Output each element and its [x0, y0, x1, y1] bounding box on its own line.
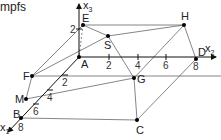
points	[19, 23, 198, 122]
x1-tick-2: 2	[62, 77, 68, 88]
label-A: A	[81, 58, 89, 70]
label-F: F	[23, 70, 30, 82]
geometry-diagram: mpfs x2 x3 x1 2 4 6	[0, 0, 221, 140]
edge-SH	[108, 25, 184, 36]
edge-BC	[21, 118, 137, 120]
x1-tick-4: 4	[47, 92, 53, 103]
label-S: S	[104, 39, 111, 51]
edges	[21, 25, 221, 120]
x1-axis-label: x1	[0, 121, 10, 135]
label-E: E	[82, 12, 89, 24]
caption-text: mpfs	[0, 0, 26, 14]
x2-tick-4: 4	[135, 60, 141, 71]
label-D: D	[198, 46, 206, 58]
edge-HG	[134, 25, 184, 78]
x2-axis-label: x2	[205, 42, 215, 56]
point-G	[132, 76, 136, 80]
point-C	[135, 118, 139, 122]
x1-tick-8: 8	[18, 122, 24, 133]
label-B: B	[13, 108, 20, 120]
edge-EA-hidden	[79, 25, 83, 57]
edge-FS	[32, 36, 108, 76]
point-M	[24, 97, 28, 101]
point-S	[106, 34, 110, 38]
point-H	[182, 23, 186, 27]
x2-tick-2: 2	[106, 60, 112, 71]
edge-HD	[184, 25, 196, 59]
label-M: M	[15, 93, 24, 105]
x3-tick-2: 2	[70, 24, 76, 35]
label-C: C	[136, 124, 144, 136]
label-G: G	[137, 73, 146, 85]
point-F	[30, 74, 34, 78]
label-H: H	[181, 10, 189, 22]
x2-tick-6: 6	[163, 60, 169, 71]
x1-tick-6: 6	[33, 106, 39, 117]
edge-ES	[83, 25, 108, 36]
x2-tick-8: 8	[193, 61, 199, 72]
